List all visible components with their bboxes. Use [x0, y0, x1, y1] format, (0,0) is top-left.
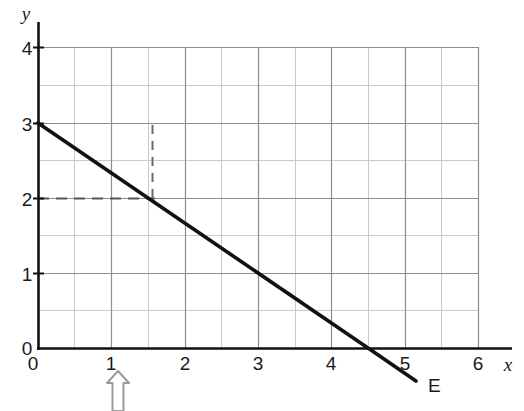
x-axis-label: x	[503, 354, 513, 375]
y-tick-label-0: 0	[22, 338, 33, 359]
y-axis-label: y	[20, 3, 31, 24]
x-tick-label-5: 5	[400, 353, 411, 374]
x-tick-label-3: 3	[253, 353, 264, 374]
y-tick-label-2: 2	[22, 189, 33, 210]
line-end-label-E: E	[428, 375, 441, 396]
y-tick-label-4: 4	[22, 38, 33, 59]
x-tick-label-4: 4	[326, 353, 337, 374]
graph-figure: 0 1 2 3 4 5 6 0 1 2 3 4 y x E	[0, 0, 524, 411]
x-tick-label-1: 1	[106, 353, 117, 374]
y-tick-label-3: 3	[22, 114, 33, 135]
x-tick-label-6: 6	[473, 353, 484, 374]
y-tick-label-1: 1	[22, 264, 33, 285]
x-tick-label-2: 2	[180, 353, 191, 374]
